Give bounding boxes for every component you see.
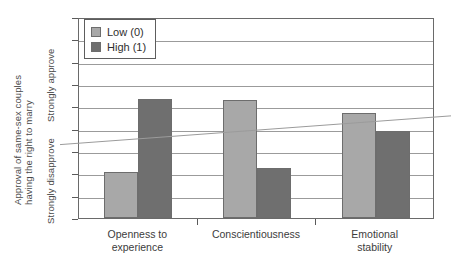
y-axis-tick-mark xyxy=(72,219,78,220)
chart-legend: Low (0) High (1) xyxy=(84,19,156,59)
legend-item-low: Low (0) xyxy=(91,24,146,39)
y-axis-title-line1: Approval of same-sex couples xyxy=(12,75,23,205)
gridline xyxy=(79,64,433,65)
bar-low xyxy=(342,113,376,218)
y-axis-endpoint-low: Strongly disapprove xyxy=(45,138,56,224)
x-axis-category-line: Conscientiousness xyxy=(197,228,316,241)
bar-low xyxy=(223,100,257,218)
bar-high xyxy=(257,168,291,218)
x-axis-category-line: Emotional xyxy=(315,228,434,241)
legend-label-high: High (1) xyxy=(107,41,146,53)
x-axis-tick-mark xyxy=(315,219,316,225)
x-axis-category-label: Openness toexperience xyxy=(78,228,197,253)
bar-low xyxy=(104,172,138,218)
x-axis-category-line: stability xyxy=(315,241,434,254)
y-axis-title-line2: having the right to marry xyxy=(23,100,34,205)
y-axis-endpoint-high: Strongly approve xyxy=(45,49,56,122)
legend-label-low: Low (0) xyxy=(107,26,144,38)
gridline xyxy=(79,86,433,87)
legend-item-high: High (1) xyxy=(91,39,146,54)
x-axis-category-line: experience xyxy=(78,241,197,254)
bar-high xyxy=(138,99,172,218)
bar-high xyxy=(376,131,410,218)
x-axis-category-label: Emotionalstability xyxy=(315,228,434,253)
x-axis-tick-mark xyxy=(197,219,198,225)
legend-swatch-high-icon xyxy=(91,42,101,52)
x-axis-category-label: Conscientiousness xyxy=(197,228,316,241)
legend-swatch-low-icon xyxy=(91,27,101,37)
x-axis-category-line: Openness to xyxy=(78,228,197,241)
